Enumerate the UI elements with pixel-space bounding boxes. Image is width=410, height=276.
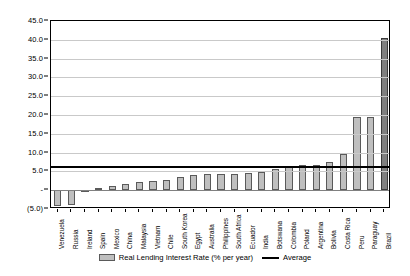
- y-axis-tick-mark: [44, 38, 48, 39]
- zero-line: [51, 190, 389, 191]
- y-axis-tick-mark: [44, 76, 48, 77]
- y-axis-tick-label: 10.0: [28, 147, 43, 156]
- y-axis-tick-label: 30.0: [28, 72, 43, 81]
- bar: [68, 190, 75, 205]
- x-axis-tick-mark: [329, 209, 330, 212]
- x-axis-tick-label: Paraguay: [372, 222, 378, 249]
- x-axis-tick-mark: [193, 209, 194, 212]
- x-axis-tick-label: Chile: [168, 234, 174, 249]
- y-axis-tick-mark: [44, 57, 48, 58]
- x-axis-tick-mark: [274, 209, 275, 212]
- y-axis-tick-label: 25.0: [28, 91, 43, 100]
- x-axis-tick-label: Colombia: [291, 222, 297, 249]
- gridline: [51, 77, 389, 78]
- chart-legend: Real Lending Interest Rate (% per year) …: [0, 253, 410, 262]
- gridline: [51, 59, 389, 60]
- x-axis-tick-label: Costa Rica: [345, 218, 351, 249]
- gridline: [51, 40, 389, 41]
- gridline: [51, 134, 389, 135]
- x-axis-tick-mark: [220, 209, 221, 212]
- x-axis-tick-mark: [234, 209, 235, 212]
- x-axis-tick-label: Russia: [73, 229, 79, 249]
- gridline: [51, 153, 389, 154]
- x-axis-tick-mark: [138, 209, 139, 212]
- x-axis-tick-label: Australia: [209, 224, 215, 249]
- x-axis-tick-mark: [261, 209, 262, 212]
- x-axis-tick-label: Mexico: [114, 229, 120, 249]
- bar: [313, 165, 320, 190]
- x-axis-tick-label: Peru: [359, 236, 365, 250]
- x-axis-tick-mark: [356, 209, 357, 212]
- bar: [353, 117, 360, 190]
- x-axis-labels: VenezuelaRussiaIrelandSpainMexicoChinaMa…: [50, 209, 390, 251]
- x-axis-tick-mark: [152, 209, 153, 212]
- y-axis-tick-mark: [44, 20, 48, 21]
- x-axis-tick-label: Brazil: [386, 233, 392, 249]
- gridline: [51, 171, 389, 172]
- x-axis-tick-label: Ecuador: [250, 225, 256, 249]
- y-axis-tick-mark: [44, 151, 48, 152]
- bar: [136, 182, 143, 190]
- y-axis-tick-mark: [44, 132, 48, 133]
- x-axis-tick-label: South Africa: [236, 215, 242, 249]
- y-axis: 45.040.035.030.025.020.015.010.05.0-(5.0…: [0, 20, 48, 208]
- y-axis-tick-label: 15.0: [28, 128, 43, 137]
- x-axis-tick-mark: [98, 209, 99, 212]
- x-axis-tick-label: Botswana: [277, 221, 283, 249]
- bar: [190, 175, 197, 190]
- x-axis-tick-label: Poland: [304, 229, 310, 249]
- legend-entry-bar: Real Lending Interest Rate (% per year): [99, 253, 253, 262]
- x-axis-tick-mark: [125, 209, 126, 212]
- y-axis-tick-mark: [44, 208, 48, 209]
- bar: [231, 174, 238, 191]
- y-axis-tick-label: 40.0: [28, 34, 43, 43]
- x-axis-tick-mark: [70, 209, 71, 212]
- gridline: [51, 115, 389, 116]
- y-axis-tick-mark: [44, 170, 48, 171]
- x-axis-tick-mark: [288, 209, 289, 212]
- legend-entry-average: Average: [262, 253, 311, 262]
- legend-label-bar: Real Lending Interest Rate (% per year): [119, 253, 253, 262]
- x-axis-tick-mark: [111, 209, 112, 212]
- chart-container: 45.040.035.030.025.020.015.010.05.0-(5.0…: [0, 0, 410, 276]
- y-axis-tick-label: 45.0: [28, 16, 43, 25]
- bar-series: [51, 21, 389, 207]
- x-axis-tick-label: Philippines: [223, 218, 229, 249]
- x-axis-tick-label: India: [263, 235, 269, 249]
- y-axis-tick-label: (5.0): [27, 204, 43, 213]
- bar: [149, 181, 156, 190]
- bar: [163, 180, 170, 190]
- bar: [54, 190, 61, 206]
- line-swatch-icon: [262, 257, 279, 259]
- bar-swatch-icon: [99, 254, 115, 261]
- bar: [217, 174, 224, 190]
- x-axis-tick-label: Spain: [100, 233, 106, 249]
- y-axis-tick-mark: [44, 189, 48, 190]
- bar: [258, 172, 265, 190]
- x-axis-tick-mark: [206, 209, 207, 212]
- y-axis-tick-label: 5.0: [32, 166, 43, 175]
- bar: [245, 173, 252, 190]
- x-axis-tick-label: Malaysia: [141, 224, 147, 249]
- x-axis-tick-label: Venezuela: [59, 219, 65, 249]
- x-axis-tick-mark: [383, 209, 384, 212]
- x-axis-tick-label: Ireland: [87, 229, 93, 249]
- gridline: [51, 96, 389, 97]
- x-axis-tick-label: Argentina: [318, 222, 324, 249]
- plot-area: [50, 20, 390, 208]
- x-axis-tick-mark: [166, 209, 167, 212]
- x-axis-tick-label: China: [127, 232, 133, 249]
- x-axis-tick-label: Egypt: [195, 233, 201, 249]
- x-axis-tick-label: Bolivia: [331, 230, 337, 249]
- x-axis-tick-mark: [57, 209, 58, 212]
- x-axis-tick-mark: [247, 209, 248, 212]
- bar: [299, 165, 306, 190]
- bar: [177, 177, 184, 190]
- y-axis-tick-mark: [44, 95, 48, 96]
- y-axis-tick-mark: [44, 114, 48, 115]
- x-axis-tick-mark: [315, 209, 316, 212]
- x-axis-tick-mark: [370, 209, 371, 212]
- x-axis-tick-label: South Korea: [182, 213, 188, 249]
- y-axis-tick-label: 35.0: [28, 53, 43, 62]
- legend-label-average: Average: [283, 253, 311, 262]
